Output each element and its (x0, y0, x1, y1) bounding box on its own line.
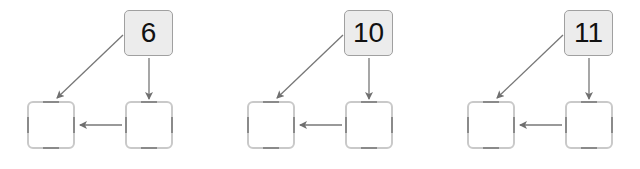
number-value: 11 (574, 17, 603, 49)
diagram-panel-2: 10 (220, 0, 440, 169)
number-box: 6 (124, 10, 173, 56)
diagram-panel-1: 6 (0, 0, 220, 169)
diagonal-arrow (497, 35, 563, 98)
empty-box-left[interactable] (247, 101, 295, 149)
diagonal-arrow (57, 35, 123, 98)
empty-box-left[interactable] (27, 101, 75, 149)
diagonal-arrow (277, 35, 343, 98)
empty-box-right[interactable] (125, 101, 173, 149)
empty-box-left[interactable] (467, 101, 515, 149)
empty-box-right[interactable] (565, 101, 613, 149)
number-value: 10 (353, 17, 384, 49)
number-box: 11 (564, 10, 613, 56)
number-box: 10 (344, 10, 393, 56)
empty-box-right[interactable] (345, 101, 393, 149)
diagram-panel-3: 11 (440, 0, 640, 169)
number-value: 6 (141, 17, 157, 49)
